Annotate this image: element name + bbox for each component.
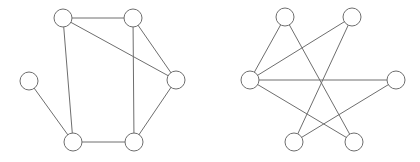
right-graph <box>241 8 405 151</box>
edge-R-U <box>250 80 354 142</box>
node-U <box>345 133 363 151</box>
node-C <box>20 72 38 90</box>
node-F <box>125 133 143 151</box>
left-graph <box>20 9 185 151</box>
edge-P-R <box>250 17 285 80</box>
edge-A-D <box>63 18 176 80</box>
edge-C-E <box>29 81 73 142</box>
edge-Q-R <box>250 17 352 80</box>
graph-diagram <box>0 0 420 162</box>
node-T <box>285 133 303 151</box>
edge-D-F <box>134 80 176 142</box>
node-Q <box>343 8 361 26</box>
node-S <box>387 71 405 89</box>
left-graph-edges <box>29 18 176 142</box>
left-graph-nodes <box>20 9 185 151</box>
node-D <box>167 71 185 89</box>
node-A <box>54 9 72 27</box>
node-B <box>124 9 142 27</box>
diagram-canvas <box>0 0 420 162</box>
edge-B-D <box>133 18 176 80</box>
edge-A-E <box>63 18 73 142</box>
edge-B-F <box>133 18 134 142</box>
node-E <box>64 133 82 151</box>
edge-S-T <box>294 80 396 142</box>
right-graph-edges <box>250 17 396 142</box>
node-R <box>241 71 259 89</box>
node-P <box>276 8 294 26</box>
